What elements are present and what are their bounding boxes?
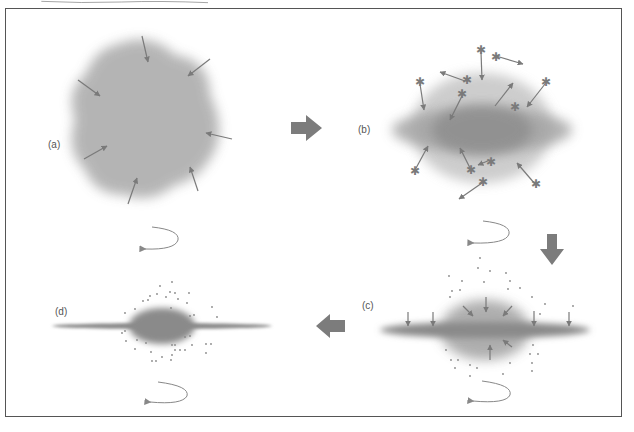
svg-text:✱: ✱ [466, 163, 476, 177]
svg-text:✱: ✱ [531, 177, 541, 191]
svg-text:✱: ✱ [486, 155, 496, 169]
transition-arrow-c-to-d [316, 314, 345, 338]
transition-arrow-a-to-b [291, 115, 322, 141]
panel-c-label: (c) [362, 300, 374, 311]
diagram-canvas: (a) ✱ ✱ ✱ ✱ ✱ ✱ ✱ ✱ ✱ ✱ ✱ ✱ (b) [0, 0, 634, 432]
svg-text:✱: ✱ [541, 75, 551, 89]
svg-text:✱: ✱ [415, 75, 425, 89]
panel-d-label: (d) [55, 306, 67, 317]
panel-a-cloud [72, 39, 219, 198]
panel-b-label: (b) [358, 124, 370, 135]
svg-text:✱: ✱ [478, 175, 488, 189]
panel-a-label: (a) [48, 139, 60, 150]
svg-text:✱: ✱ [491, 50, 501, 64]
panel-d-galaxy [52, 308, 272, 344]
svg-text:✱: ✱ [457, 87, 467, 101]
svg-text:✱: ✱ [410, 164, 420, 178]
transition-arrow-b-to-c [540, 234, 564, 265]
svg-text:✱: ✱ [510, 100, 520, 114]
svg-text:✱: ✱ [476, 43, 486, 57]
svg-text:✱: ✱ [462, 73, 472, 87]
panel-c-disk [380, 300, 590, 360]
